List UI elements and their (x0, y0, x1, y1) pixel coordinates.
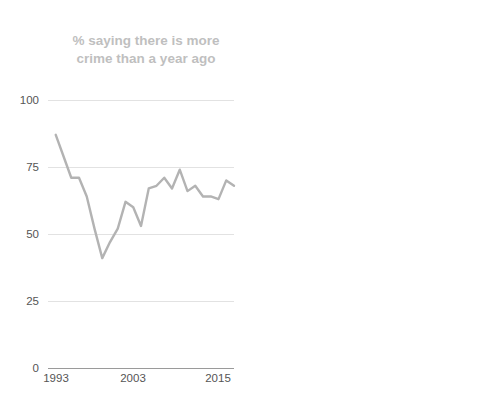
panel-left-title: % saying there is more crime than a year… (58, 22, 234, 80)
xtick-label-1993: 1993 (43, 372, 69, 384)
panel-violent-crime-rate: Violent crimes per 1,000 people ages 12 … (252, 0, 489, 414)
chart-page: % saying there is more crime than a year… (0, 0, 489, 414)
ytick-label-0: 0 (0, 362, 39, 374)
panel-crime-perception: % saying there is more crime than a year… (0, 0, 252, 414)
xtick-label-2003: 2003 (120, 372, 146, 384)
plot-area-left: 100 75 50 25 0 1993 2003 2015 (48, 100, 234, 368)
line-series-crime-perception (48, 100, 234, 368)
ytick-label-25: 25 (0, 295, 39, 307)
ytick-label-75: 75 (0, 161, 39, 173)
gridline-0-baseline: 0 (48, 368, 234, 369)
xtick-label-2015: 2015 (205, 372, 231, 384)
ytick-label-100: 100 (0, 94, 39, 106)
ytick-label-50: 50 (0, 228, 39, 240)
